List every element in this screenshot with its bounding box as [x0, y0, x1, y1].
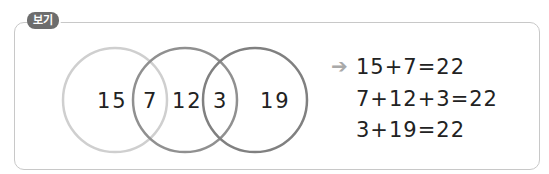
equation-3: 3+19=22 — [356, 118, 465, 142]
right-arrow-icon: ➔ — [331, 54, 348, 78]
venn-region-middle: 12 — [172, 89, 203, 113]
venn-region-middle-right: 3 — [213, 89, 226, 113]
venn-region-right: 19 — [260, 89, 291, 113]
equation-1: 15+7=22 — [356, 55, 465, 79]
venn-region-left: 15 — [97, 89, 128, 113]
venn-region-left-middle: 7 — [143, 89, 156, 113]
equation-2: 7+12+3=22 — [356, 87, 498, 111]
